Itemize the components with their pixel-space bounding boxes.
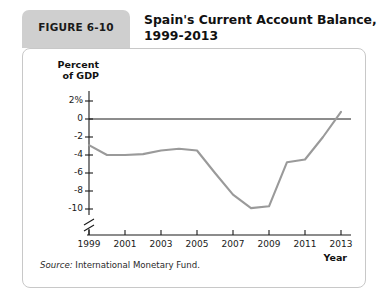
y-tick-label: -2 <box>43 131 83 141</box>
source-note: Source: International Monetary Fund. <box>40 260 200 270</box>
y-tick-label: -8 <box>43 185 83 195</box>
x-tick-label: 2007 <box>213 239 253 249</box>
plot-area: Percent of GDP Year 2%0-2-4-6-8-10199920… <box>23 49 367 289</box>
x-tick-label: 2003 <box>141 239 181 249</box>
figure-title: Spain's Current Account Balance, 1999-20… <box>144 12 368 43</box>
figure-title-line-1: Spain's Current Account Balance, <box>144 12 368 28</box>
figure-header: FIGURE 6-10 Spain's Current Account Bala… <box>22 10 368 50</box>
source-label: Source: <box>40 260 73 270</box>
y-tick-label: -6 <box>43 167 83 177</box>
chart-panel: Percent of GDP Year 2%0-2-4-6-8-10199920… <box>22 48 366 288</box>
y-tick-label: 0 <box>43 113 83 123</box>
y-tick-label: -4 <box>43 149 83 159</box>
x-tick-label: 1999 <box>69 239 109 249</box>
x-tick-label: 2011 <box>285 239 325 249</box>
x-tick-label: 2001 <box>105 239 145 249</box>
y-tick-label: -10 <box>43 203 83 213</box>
x-tick-label: 2013 <box>321 239 361 249</box>
figure-title-line-2: 1999-2013 <box>144 28 368 44</box>
y-tick-label: 2% <box>43 95 83 105</box>
figure-container: FIGURE 6-10 Spain's Current Account Bala… <box>0 0 388 306</box>
x-tick-label: 2005 <box>177 239 217 249</box>
x-tick-label: 2009 <box>249 239 289 249</box>
source-text: International Monetary Fund. <box>75 260 200 270</box>
figure-number-label: FIGURE 6-10 <box>22 21 130 33</box>
x-axis-title: Year <box>299 252 347 263</box>
figure-number-badge: FIGURE 6-10 <box>22 10 130 48</box>
